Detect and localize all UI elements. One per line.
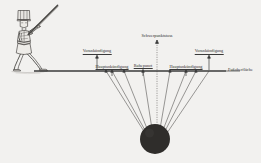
label-hauptankuendigung-right: Hauptankündigung [170, 65, 203, 71]
label-fussoberflaeche: Fußoberfläche [228, 68, 253, 72]
ray-6 [167, 71, 209, 133]
geometry-layer [0, 0, 261, 163]
converging-rays [106, 71, 209, 133]
label-vorankuendigung-right: Vorankündigung [195, 49, 224, 55]
ray-1 [106, 71, 145, 133]
ray-3 [143, 71, 152, 129]
ray-7 [112, 71, 146, 132]
label-schwerpunktstoss: Schwerpunktstoss [141, 34, 172, 38]
ball-highlight [145, 129, 154, 138]
ray-8 [165, 71, 196, 131]
ray-5 [163, 71, 186, 130]
arrow-schwerpunktstoss [156, 40, 159, 43]
label-ruhepunct: Ruhepunct [134, 64, 153, 70]
diagram-canvas: Vorankündigung Hauptankündigung Ruhepunc… [0, 0, 261, 163]
label-vorankuendigung-left: Vorankündigung [83, 49, 112, 55]
ball [140, 124, 170, 154]
ray-4 [160, 71, 170, 129]
label-hauptankuendigung-left: Hauptankündigung [96, 65, 129, 71]
